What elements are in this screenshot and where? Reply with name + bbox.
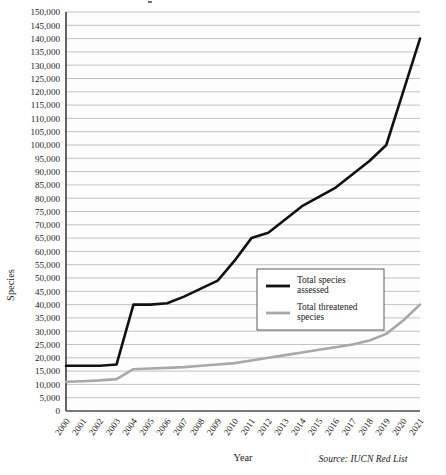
y-axis-tick-label: 50,000 <box>35 273 60 283</box>
y-axis-tick-label: 30,000 <box>35 327 60 337</box>
y-axis-title: Species <box>5 269 16 301</box>
y-axis-tick-label: 125,000 <box>30 74 60 84</box>
y-axis-tick-label: 20,000 <box>35 353 60 363</box>
y-axis-tick-label: 70,000 <box>35 220 60 230</box>
y-axis-tick-labels: 150,000145,000140,000135,000130,000125,0… <box>30 7 60 416</box>
y-axis-tick-label: 10,000 <box>35 380 60 390</box>
y-axis-tick-label: 130,000 <box>30 61 60 71</box>
y-axis-tick-label: 115,000 <box>31 100 61 110</box>
y-axis-tick-label: 75,000 <box>35 207 60 217</box>
y-axis-tick-label: 25,000 <box>35 340 60 350</box>
y-axis-tick-label: 35,000 <box>35 313 60 323</box>
y-axis-tick-label: 100,000 <box>30 140 60 150</box>
legend-label-assessed-line1: Total species <box>297 275 346 285</box>
y-axis-tick-label: 140,000 <box>30 34 60 44</box>
legend-label-threatened-line2: species <box>297 312 324 322</box>
y-axis-tick-label: 135,000 <box>30 47 60 57</box>
y-axis-tick-label: 65,000 <box>35 233 60 243</box>
y-axis-tick-label: 40,000 <box>35 300 60 310</box>
y-axis-tick-label: 60,000 <box>35 247 60 257</box>
legend-label-threatened-line1: Total threatened <box>297 302 358 312</box>
page-artifact-speck <box>148 1 152 3</box>
y-axis-tick-label: 150,000 <box>30 7 60 17</box>
legend-label-assessed-line2: assessed <box>297 285 329 295</box>
chart-canvas: 150,000145,000140,000135,000130,000125,0… <box>0 0 446 475</box>
y-axis-tick-label: 105,000 <box>30 127 60 137</box>
y-axis-tick-label: 95,000 <box>35 154 60 164</box>
species-assessment-line-chart: 150,000145,000140,000135,000130,000125,0… <box>0 0 446 475</box>
x-axis-title: Year <box>233 452 253 463</box>
y-axis-tick-label: 120,000 <box>30 87 60 97</box>
y-axis-tick-label: 85,000 <box>35 180 60 190</box>
y-axis-tick-label: 145,000 <box>30 21 60 31</box>
y-axis-tick-label: 0 <box>55 406 60 416</box>
y-axis-tick-label: 110,000 <box>31 114 61 124</box>
y-axis-tick-label: 5,000 <box>40 393 61 403</box>
chart-legend: Total species assessed Total threatened … <box>257 269 384 330</box>
y-axis-tick-label: 90,000 <box>35 167 60 177</box>
y-axis-tick-label: 15,000 <box>35 366 60 376</box>
source-note: Source: IUCN Red List <box>319 453 408 464</box>
y-axis-tick-label: 45,000 <box>35 287 60 297</box>
y-axis-tick-label: 80,000 <box>35 194 60 204</box>
y-axis-tick-label: 55,000 <box>35 260 60 270</box>
